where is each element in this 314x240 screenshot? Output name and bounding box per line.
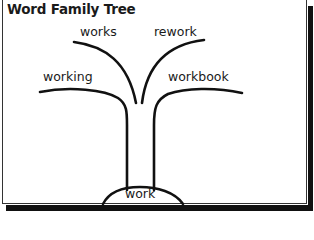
word-workbook: workbook: [168, 69, 229, 84]
branch-working-line: [40, 89, 127, 190]
branch-workbook-line: [154, 89, 242, 190]
word-rework: rework: [154, 24, 197, 39]
word-works: works: [80, 24, 117, 39]
word-working: working: [43, 69, 93, 84]
word-root-work: work: [125, 186, 155, 201]
